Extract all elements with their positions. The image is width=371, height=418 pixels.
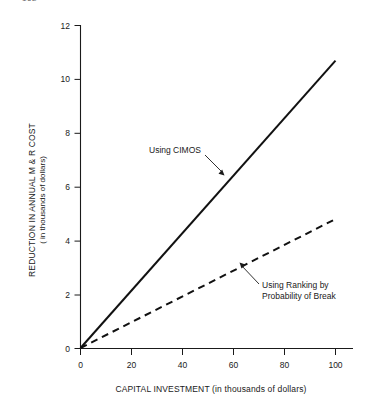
y-tick-label: 12 [61,21,71,31]
x-tick-label: 100 [328,360,342,370]
x-axis-title: CAPITAL INVESTMENT (in thousands of doll… [115,384,306,394]
y-axis-ticks [75,26,81,349]
line-chart: 12 10 8 6 4 2 0 0 20 40 [0,0,371,418]
x-axis-ticks [81,349,336,356]
annotation-using-ranking-line2: Probability of Break [262,291,336,301]
x-tick-label: 40 [178,360,188,370]
series-line-using-cimos [81,61,336,348]
annotation-using-cimos-leader [205,155,225,176]
annotation-using-ranking-label: Using Ranking by Probability of Break [262,280,336,301]
y-tick-label: 8 [65,128,70,138]
y-tick-label: 0 [65,344,70,354]
chart-figure: 12 10 8 6 4 2 0 0 20 40 [0,0,371,418]
x-tick-label: 80 [280,360,290,370]
annotation-using-ranking-leader [240,263,260,285]
x-axis-tick-labels: 0 20 40 60 80 100 [78,360,343,370]
y-axis-subtitle: ( in thousands of dollars) [38,156,47,244]
figure-page: 162 12 10 8 6 4 [0,0,371,418]
y-tick-label: 10 [61,74,71,84]
y-tick-label: 2 [65,290,70,300]
x-tick-label: 0 [78,360,83,370]
annotation-using-ranking-line1: Using Ranking by [262,280,329,290]
y-tick-label: 4 [65,236,70,246]
x-tick-label: 20 [127,360,137,370]
y-axis-title: REDUCTION IN ANNUAL M & R COST [27,123,37,277]
y-tick-label: 6 [65,182,70,192]
annotation-using-cimos-label: Using CIMOS [149,145,201,155]
x-tick-label: 60 [229,360,239,370]
y-axis-tick-labels: 12 10 8 6 4 2 0 [61,21,71,354]
